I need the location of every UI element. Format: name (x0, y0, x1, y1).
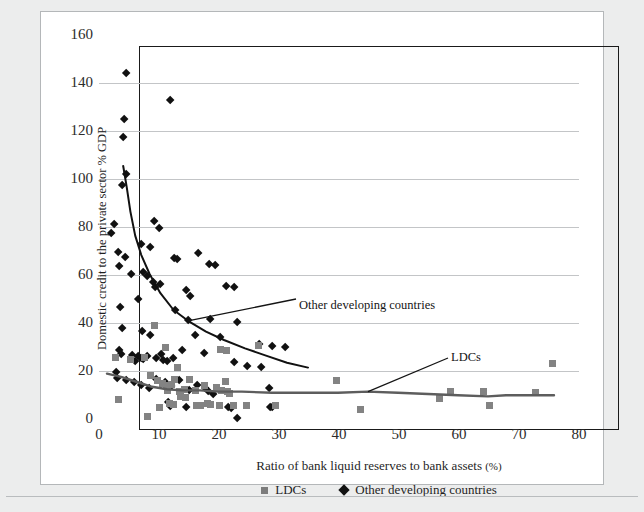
scatter-point-ldcs (486, 402, 493, 409)
x-axis-label: Ratio of bank liquid reserves to bank as… (139, 458, 619, 474)
scatter-point-other-developing-countries (122, 69, 131, 78)
gridline (99, 227, 579, 228)
scatter-point-ldcs (156, 404, 163, 411)
y-axis-tick-label: 140 (53, 75, 93, 90)
scatter-point-ldcs (171, 376, 178, 383)
scatter-point-ldcs (549, 360, 556, 367)
y-axis-tick-label: 100 (53, 171, 93, 186)
y-axis-tick-label: 60 (53, 267, 93, 282)
annot-ldcs: LDCs (451, 350, 481, 365)
scatter-point-ldcs (151, 322, 158, 329)
scatter-point-other-developing-countries (112, 374, 121, 383)
gridline (99, 323, 579, 324)
scatter-point-ldcs (222, 378, 229, 385)
scatter-point-ldcs (144, 413, 151, 420)
x-axis-label-text: Ratio of bank liquid reserves to bank as… (256, 458, 482, 473)
scatter-point-ldcs (333, 377, 340, 384)
scatter-point-other-developing-countries (118, 180, 127, 189)
page-caption-clipped (8, 499, 636, 512)
scatter-point-ldcs (192, 387, 199, 394)
x-axis-tick-label: 20 (196, 427, 242, 442)
scatter-point-ldcs (226, 390, 233, 397)
x-axis-tick-label: 80 (556, 427, 602, 442)
x-axis-tick-label: 40 (316, 427, 362, 442)
gridline (99, 83, 579, 84)
scatter-point-ldcs (216, 402, 223, 409)
x-axis-label-unit: (%) (485, 460, 502, 472)
annot-other-developing-countries: Other developing countries (299, 298, 435, 313)
y-axis-tick-label: 120 (53, 123, 93, 138)
scatter-point-ldcs (272, 402, 279, 409)
scatter-point-ldcs (186, 376, 193, 383)
gridline (99, 131, 579, 132)
x-axis-tick-label: 60 (436, 427, 482, 442)
scatter-point-other-developing-countries (122, 170, 131, 179)
gridline (99, 179, 579, 180)
scatter-point-ldcs (112, 354, 119, 361)
y-axis-tick-label: 20 (53, 363, 93, 378)
scatter-point-ldcs (170, 401, 177, 408)
y-axis-tick-label: 0 (53, 411, 93, 426)
scatter-point-ldcs (182, 394, 189, 401)
x-axis-tick-label: 30 (256, 427, 302, 442)
scatter-point-ldcs (115, 396, 122, 403)
y-axis-label-text: Domestic credit to the private sector % … (96, 126, 111, 349)
gridline (99, 371, 579, 372)
scatter-point-ldcs (201, 382, 208, 389)
scatter-point-ldcs (243, 402, 250, 409)
scatter-point-ldcs (162, 344, 169, 351)
gridline (99, 275, 579, 276)
scatter-point-ldcs (255, 342, 262, 349)
diamond-marker-icon (339, 484, 350, 495)
y-axis-tick-label: 40 (53, 315, 93, 330)
scatter-point-other-developing-countries (121, 376, 130, 385)
x-axis-tick-label: 10 (136, 427, 182, 442)
y-axis-tick-label: 80 (53, 219, 93, 234)
y-axis-tick-label: 160 (53, 27, 93, 42)
scatter-point-ldcs (127, 356, 134, 363)
x-axis-tick-label: 70 (496, 427, 542, 442)
scatter-point-ldcs (230, 402, 237, 409)
scatter-point-ldcs (357, 406, 364, 413)
square-marker-icon (261, 487, 268, 494)
scatter-point-other-developing-countries (120, 114, 129, 123)
scatter-point-ldcs (223, 347, 230, 354)
figure-panel: 020406080100120140160 01020304050607080 … (40, 11, 604, 485)
scatter-point-ldcs (164, 387, 171, 394)
figure-page: 020406080100120140160 01020304050607080 … (0, 0, 644, 512)
scatter-point-other-developing-countries (115, 262, 124, 271)
scatter-point-ldcs (480, 388, 487, 395)
scatter-point-ldcs (181, 386, 188, 393)
scatter-point-other-developing-countries (116, 303, 125, 312)
scatter-point-ldcs (207, 401, 214, 408)
scatter-point-ldcs (174, 364, 181, 371)
scatter-point-other-developing-countries (120, 252, 129, 261)
scatter-point-other-developing-countries (117, 323, 126, 332)
scatter-point-other-developing-countries (126, 269, 135, 278)
scatter-point-ldcs (447, 388, 454, 395)
x-axis-tick-label: 50 (376, 427, 422, 442)
plot-frame (139, 46, 619, 430)
scatter-point-ldcs (147, 372, 154, 379)
page-bottom-rule (6, 496, 638, 497)
scatter-point-ldcs (436, 395, 443, 402)
y-axis-label: Domestic credit to the private sector % … (93, 46, 113, 430)
scatter-point-ldcs (532, 389, 539, 396)
scatter-point-other-developing-countries (118, 132, 127, 141)
scatter-point-ldcs (141, 354, 148, 361)
